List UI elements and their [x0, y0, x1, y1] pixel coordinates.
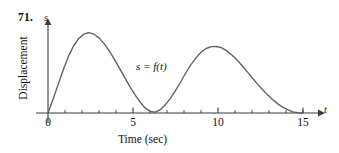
x-axis-title: Time (sec) [118, 133, 167, 145]
x-tick-label-15: 15 [293, 116, 313, 128]
x-tick-label-5: 5 [123, 116, 143, 128]
x-tick-label-10: 10 [208, 116, 228, 128]
x-axis [36, 109, 325, 116]
x-axis-symbol: t [324, 104, 327, 115]
y-axis-title: Displacement [17, 25, 29, 111]
y-axis-symbol: s [44, 12, 48, 23]
figure-page: 71. [0, 0, 339, 153]
x-tick-label-0: 0 [38, 116, 58, 128]
displacement-time-chart [0, 0, 339, 153]
curve-path [48, 33, 303, 113]
curve-label: s = f(t) [136, 60, 167, 72]
